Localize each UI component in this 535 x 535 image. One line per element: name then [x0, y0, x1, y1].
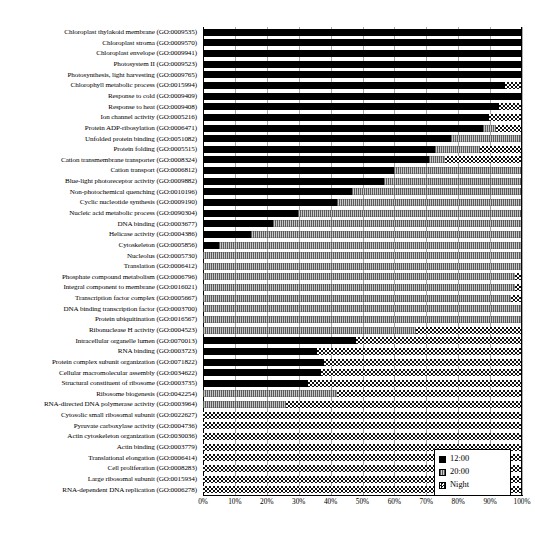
bar-segment-noon: [203, 146, 435, 153]
bar-segment-night: [337, 390, 521, 397]
bar-segment-noon: [203, 369, 321, 376]
category-label: RNA-dependent DNA replication (GO:000627…: [62, 486, 197, 494]
bar-segment-night: [480, 146, 521, 153]
bar-segment-noon: [203, 348, 317, 355]
bar-segment-noon: [203, 359, 324, 366]
chart-legend: 12:00 20:00 Night: [434, 449, 511, 496]
bar-segment-night: [324, 359, 521, 366]
bar-row: [203, 316, 521, 323]
bar-row: [203, 114, 521, 121]
bar-segment-noon: [203, 178, 384, 185]
bar-row: [203, 327, 521, 334]
category-label: Large ribosomal subunit (GO:0015934): [88, 475, 197, 483]
bar-segment-evening: [203, 327, 416, 334]
category-label: Cation transport (GO:0006812): [110, 166, 197, 174]
bar-segment-evening: [298, 210, 521, 217]
category-label: Translational elongation (GO:0006414): [88, 454, 197, 462]
bar-segment-evening: [203, 305, 521, 312]
bar-row: [203, 369, 521, 376]
bar-row: [203, 167, 521, 174]
bar-segment-noon: [203, 71, 521, 78]
bar-segment-noon: [203, 167, 394, 174]
bar-segment-noon: [203, 93, 521, 100]
bar-row: [203, 82, 521, 89]
bar-segment-noon: [203, 231, 251, 238]
bar-row: [203, 146, 521, 153]
bar-row: [203, 273, 521, 280]
bar-row: [203, 29, 521, 36]
bar-row: [203, 135, 521, 142]
bar-segment-noon: [203, 125, 483, 132]
bar-segment-evening: [203, 390, 337, 397]
bar-segment-evening: [435, 146, 480, 153]
category-label: Actin cytoskeleton organization (GO:0030…: [67, 432, 197, 440]
category-label: RNA binding (GO:0003723): [118, 347, 197, 355]
bar-row: [203, 380, 521, 387]
gridline: [522, 27, 523, 495]
bar-segment-evening: [273, 220, 521, 227]
category-label: Non-photochemical quenching (GO:0010196): [70, 188, 197, 196]
bar-segment-noon: [203, 82, 505, 89]
bar-row: [203, 295, 521, 302]
bar-row: [203, 50, 521, 57]
bar-row: [203, 284, 521, 291]
bar-segment-evening: [483, 125, 496, 132]
bar-segment-evening: [203, 401, 286, 408]
bar-segment-evening: [203, 273, 515, 280]
category-label: Cytoskeleton (GO:0005856): [119, 241, 197, 249]
category-label: Protein complex subunit organization (GO…: [52, 358, 197, 366]
category-label: Unfolded protein binding (GO:0051082): [85, 135, 197, 143]
legend-label-evening: 20:00: [450, 468, 469, 476]
category-label: Photosynthesis, light harvesting (GO:000…: [68, 71, 198, 79]
bar-segment-night: [203, 412, 521, 419]
bar-row: [203, 61, 521, 68]
bar-row: [203, 422, 521, 429]
bar-row: [203, 71, 521, 78]
bar-segment-evening: [394, 167, 521, 174]
bar-segment-night: [317, 348, 521, 355]
category-label: Helicase activity (GO:0004386): [109, 230, 197, 238]
bar-row: [203, 125, 521, 132]
bar-segment-night: [321, 369, 521, 376]
bar-row: [203, 401, 521, 408]
bar-segment-evening: [352, 188, 521, 195]
bar-segment-night: [445, 156, 521, 163]
bar-segment-night: [308, 380, 521, 387]
bar-segment-noon: [203, 135, 451, 142]
x-tick-label: 80%: [451, 497, 464, 506]
x-tick-label: 100%: [513, 497, 530, 506]
bar-segment-noon: [203, 156, 429, 163]
bar-segment-night: [515, 273, 521, 280]
stacked-bar-chart: Chloroplast thylakoid membrane (GO:00095…: [0, 0, 535, 535]
legend-item-noon: 12:00: [439, 453, 506, 466]
category-label: Chlorophyll metabolic process (GO:001599…: [71, 81, 197, 89]
bar-segment-night: [496, 125, 521, 132]
bar-segment-night: [505, 82, 521, 89]
bar-row: [203, 252, 521, 259]
category-label: Protein ubiquitination (GO:0016567): [95, 315, 197, 323]
category-label: Cellular macromolecular assembly (GO:003…: [59, 369, 197, 377]
x-axis-tick-labels: 0%10%20%30%40%50%60%70%80%90%100%: [0, 497, 535, 511]
category-label: Cytosolic small ribosomal subunit (GO:00…: [61, 411, 197, 419]
category-label: Cyclic nucleotide synthesis (GO:0009190): [80, 198, 197, 206]
bar-segment-evening: [337, 199, 521, 206]
bar-row: [203, 231, 521, 238]
bar-segment-noon: [203, 337, 356, 344]
bar-row: [203, 156, 521, 163]
legend-swatch-night: [439, 482, 446, 489]
bar-segment-night: [489, 114, 521, 121]
category-label: Chloroplast thylakoid membrane (GO:00095…: [64, 28, 197, 36]
bar-row: [203, 263, 521, 270]
bar-row: [203, 188, 521, 195]
bar-row: [203, 348, 521, 355]
x-tick-label: 50%: [356, 497, 369, 506]
bar-segment-noon: [203, 103, 499, 110]
bar-segment-evening: [203, 263, 521, 270]
bar-row: [203, 210, 521, 217]
x-tick-label: 70%: [420, 497, 433, 506]
bar-segment-evening: [251, 231, 521, 238]
category-label: Nucleolus (GO:0005730): [127, 252, 197, 260]
x-tick-label: 20%: [260, 497, 273, 506]
bar-row: [203, 390, 521, 397]
category-label: DNA binding transcription factor (GO:000…: [64, 305, 197, 313]
